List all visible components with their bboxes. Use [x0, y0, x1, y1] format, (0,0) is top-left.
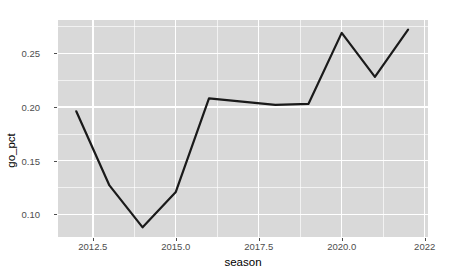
x-axis-tick-mark: [342, 238, 343, 241]
x-axis-tick-mark: [425, 238, 426, 241]
x-axis-tick-label: 2017.5: [244, 241, 273, 252]
x-axis-tick-mark: [176, 238, 177, 241]
y-axis-tick-mark: [54, 214, 57, 215]
y-axis-tick-mark: [54, 161, 57, 162]
x-axis-tick-label: 2012.5: [78, 241, 107, 252]
y-axis-tick-mark: [54, 53, 57, 54]
chart-container: go_pct 0.100.150.200.25 2012.52015.02017…: [0, 0, 449, 279]
x-axis-title: season: [58, 256, 428, 268]
x-axis-tick-label: 2015.0: [161, 241, 190, 252]
x-axis-tick-mark: [259, 238, 260, 241]
y-axis-tick-mark: [54, 107, 57, 108]
x-axis-tick-label: 2020.0: [327, 241, 356, 252]
x-axis-tick-labels: 2012.52015.02017.52020.02022: [0, 0, 449, 279]
x-axis-tick-label: 2022: [414, 241, 435, 252]
x-axis-tick-mark: [93, 238, 94, 241]
